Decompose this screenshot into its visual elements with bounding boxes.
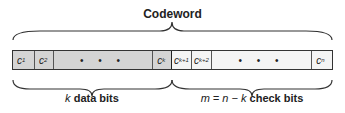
top-brace bbox=[13, 22, 332, 40]
bit-cell-ck: ck bbox=[153, 51, 172, 69]
bit-cell-ck2: ck+2 bbox=[192, 51, 212, 69]
bit-cell-c2: c2 bbox=[35, 51, 54, 69]
data-ellipsis: • • • bbox=[54, 51, 153, 69]
check-ellipsis: • • • bbox=[212, 51, 312, 69]
check-bits-label: m = n − k check bits bbox=[192, 92, 312, 104]
codeword-bar: c1 c2 • • • ck ck+1 ck+2 • • • cn bbox=[12, 50, 333, 70]
data-bits-label: k data bits bbox=[52, 92, 132, 104]
bit-cell-c1: c1 bbox=[13, 51, 35, 69]
bit-cell-ck1: ck+1 bbox=[172, 51, 192, 69]
bit-cell-cn: cn bbox=[312, 51, 332, 69]
